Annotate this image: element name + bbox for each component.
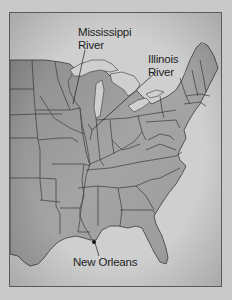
lake-ontario: [146, 90, 164, 98]
illinois-label-line1: Illinois: [148, 53, 178, 66]
mississippi-label-line1: Mississippi: [78, 26, 131, 39]
illinois-label-line2: River: [148, 66, 178, 79]
mississippi-river-label: Mississippi River: [78, 26, 131, 51]
new-orleans-label: New Orleans: [73, 256, 137, 269]
new-orleans-leader: [95, 243, 99, 256]
new-orleans-marker: [92, 240, 96, 244]
mississippi-label-line2: River: [78, 39, 131, 52]
illinois-river-label: Illinois River: [148, 53, 178, 78]
